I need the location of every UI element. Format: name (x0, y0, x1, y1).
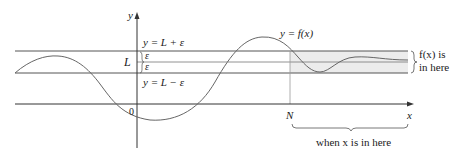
center-L-label: L (124, 56, 131, 68)
epsilon-lower-label: ε (145, 62, 149, 72)
epsilon-brace-upper (140, 52, 144, 73)
function-curve (15, 37, 408, 120)
curve-label: y = f(x) (280, 28, 313, 39)
y-axis-arrow-icon (135, 12, 140, 19)
x-axis-arrow-icon (407, 102, 414, 107)
epsilon-upper-label: ε (145, 51, 149, 61)
x-axis-label: x (407, 110, 412, 121)
upper-line-label: y = L + ε (143, 37, 184, 48)
lower-line-label: y = L − ε (143, 77, 184, 88)
y-axis-label: y (128, 10, 133, 21)
band-annotation-line2: in here (419, 62, 449, 73)
origin-label: 0 (129, 107, 134, 117)
domain-annotation: when x is in here (316, 137, 391, 148)
n-label: N (286, 110, 293, 121)
limit-at-infinity-diagram (0, 0, 460, 157)
band-annotation-line1: f(x) is (419, 49, 446, 60)
band-brace (411, 51, 417, 73)
domain-brace (292, 124, 408, 131)
